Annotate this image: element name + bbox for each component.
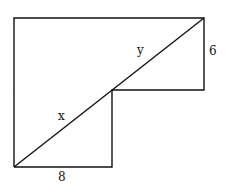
label-x: x: [58, 110, 65, 122]
label-right-side-6: 6: [209, 45, 217, 57]
diagonal-line: [14, 18, 204, 167]
label-bottom-side-8: 8: [58, 171, 66, 183]
geometry-figure: [0, 0, 229, 187]
label-y: y: [137, 44, 144, 56]
